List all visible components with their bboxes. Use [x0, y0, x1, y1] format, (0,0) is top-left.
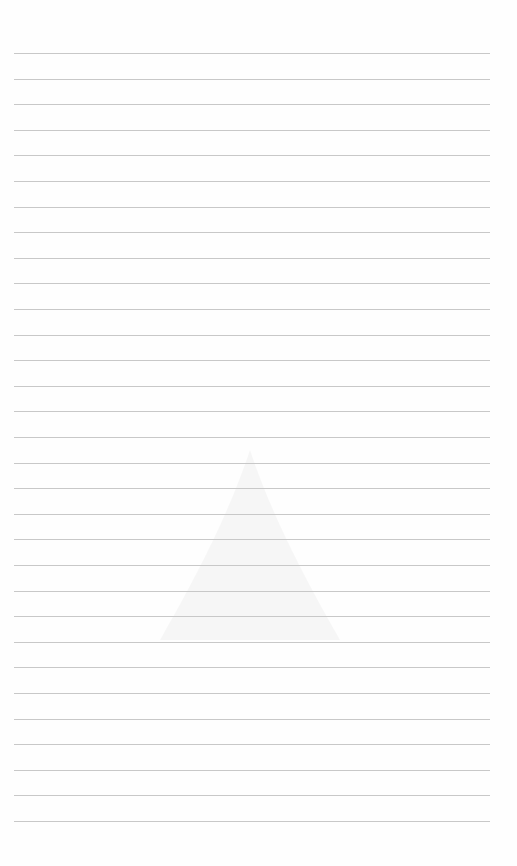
ruled-line: [14, 642, 490, 643]
ruled-line: [14, 795, 490, 796]
ruled-line: [14, 79, 490, 80]
faint-watermark-illustration: [100, 390, 400, 690]
ruled-line: [14, 130, 490, 131]
ruled-line: [14, 437, 490, 438]
ruled-line: [14, 719, 490, 720]
ruled-line: [14, 514, 490, 515]
ruled-line: [14, 539, 490, 540]
ruled-line: [14, 232, 490, 233]
lined-paper-page: [0, 0, 517, 866]
ruled-line: [14, 258, 490, 259]
ruled-line: [14, 616, 490, 617]
ruled-line: [14, 283, 490, 284]
ruled-line: [14, 53, 490, 54]
ruled-line: [14, 463, 490, 464]
ruled-line: [14, 693, 490, 694]
ruled-line: [14, 488, 490, 489]
ruled-line: [14, 667, 490, 668]
ruled-line: [14, 821, 490, 822]
ruled-line: [14, 565, 490, 566]
ruled-line: [14, 155, 490, 156]
ruled-line: [14, 770, 490, 771]
ruled-line: [14, 181, 490, 182]
ruled-line: [14, 411, 490, 412]
ruled-line: [14, 360, 490, 361]
ruled-line: [14, 744, 490, 745]
ruled-line: [14, 591, 490, 592]
ruled-line: [14, 207, 490, 208]
ruled-line: [14, 309, 490, 310]
ruled-line: [14, 386, 490, 387]
ruled-line: [14, 335, 490, 336]
ruled-line: [14, 104, 490, 105]
